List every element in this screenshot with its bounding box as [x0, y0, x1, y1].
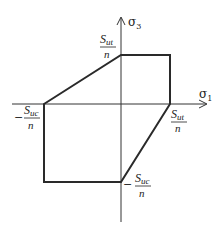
label-left-minus-suc-over-n: − Suc n — [14, 103, 40, 131]
svg-text:Suc: Suc — [135, 171, 150, 186]
label-top-sut-over-n: Sut n — [100, 32, 116, 60]
label-right-sut-over-n: Sut n — [171, 107, 187, 134]
sigma1-label: σ1 — [199, 87, 212, 103]
svg-text:Sut: Sut — [100, 32, 114, 47]
sigma3-label: σ3 — [128, 15, 141, 31]
svg-text:Suc: Suc — [24, 103, 39, 118]
svg-text:−: − — [14, 111, 23, 124]
failure-envelope-diagram: σ3 σ1 Sut n Sut n − Suc n − Suc n — [0, 0, 217, 233]
svg-text:n: n — [139, 187, 145, 199]
svg-text:−: − — [123, 178, 132, 191]
label-bottom-minus-suc-over-n: − Suc n — [123, 171, 151, 199]
failure-envelope — [44, 55, 170, 182]
svg-text:n: n — [104, 48, 110, 60]
svg-text:Sut: Sut — [171, 107, 185, 122]
svg-text:n: n — [28, 119, 34, 131]
svg-text:n: n — [175, 122, 181, 134]
